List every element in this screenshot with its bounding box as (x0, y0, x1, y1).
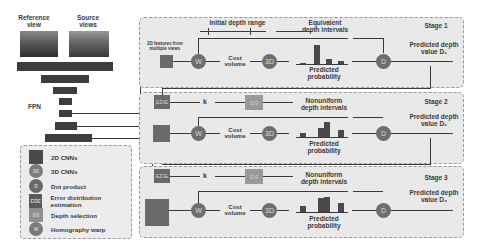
legend-item-error-distribution: EDE Error distribution estimation (29, 194, 131, 208)
warp-node-stage-2: W (191, 126, 206, 141)
legend-item-3d-cnns: 3D 3D CNNs (29, 164, 77, 178)
stage1-to-stage2-connector (162, 88, 163, 95)
pred-axis-1 (391, 61, 453, 62)
arrow (198, 38, 199, 54)
arrow (206, 133, 220, 134)
probability-histogram-3 (300, 197, 346, 213)
arrow (277, 61, 289, 62)
legend-item-dot-product: D Dot product (29, 179, 86, 193)
probability-label-1: Predicted probability (298, 67, 350, 81)
arrow (250, 61, 262, 62)
circle-d-icon: D (29, 179, 43, 193)
probability-label-2: Predicted probability (298, 141, 350, 155)
pred-depth-label-1: Predicted depth value D₁ (408, 42, 460, 56)
circle-w-icon: W (29, 222, 43, 236)
ds-node-stage-3: DS (245, 169, 263, 184)
warp-node-stage-3: W (191, 203, 206, 218)
stage1-to-stage2-connector (430, 66, 431, 88)
reference-view-label: Reference view (14, 15, 54, 29)
pred-axis-2 (391, 133, 453, 134)
initial-range-axis (200, 31, 266, 32)
dot-product-node-2: D (376, 126, 391, 141)
arrow (250, 133, 262, 134)
range-tick (208, 28, 209, 35)
square-ds-icon: DS (29, 208, 43, 222)
cost-volume-label-2: Cost volume (220, 127, 250, 140)
arrow (353, 38, 383, 39)
legend-item-homography-warp: W Homography warp (29, 222, 105, 236)
circle-3d-icon: 3D (29, 164, 43, 178)
fpn-level-3 (53, 87, 77, 94)
warp-node-stage-1: W (191, 54, 206, 69)
fpn-out-3 (45, 134, 92, 142)
arrow (206, 210, 220, 211)
stage-3-title: Stage 3 (416, 175, 456, 182)
arrow (198, 191, 199, 203)
ede-node-stage-3: EDE (154, 169, 170, 183)
fpn-label: FPN (28, 104, 41, 111)
dot-product-node-1: D (376, 54, 391, 69)
ede-node-stage-2: EDE (154, 95, 170, 109)
arrow (206, 61, 220, 62)
stage2-to-stage3-connector (430, 138, 431, 164)
initial-depth-range-label: Initial depth range (200, 20, 275, 27)
fpn-connector-1 (72, 113, 140, 114)
fpn-level-1 (17, 62, 113, 71)
intervals-axis-1 (294, 38, 348, 39)
pred-depth-label-3: Predicted depth value D₃ (408, 190, 460, 204)
cnn3d-node-stage-2: 3D (262, 126, 277, 141)
intervals-axis-3 (294, 191, 348, 192)
fpn-out-1 (59, 110, 72, 117)
arrow (170, 176, 200, 177)
intervals-axis-2 (294, 117, 348, 118)
square-2d-icon (29, 150, 43, 164)
source-views-image (69, 31, 109, 57)
stage2-to-stage3-connector (162, 164, 431, 165)
interval-feedback-line-3 (198, 191, 298, 192)
cnn3d-node-stage-1: 3D (262, 54, 277, 69)
fpn-level-4 (59, 98, 72, 105)
legend-item-2d-cnns: 2D CNNs (29, 150, 77, 164)
arrow (277, 210, 289, 211)
features-2d-node-stage-3 (145, 199, 169, 226)
pred-axis-3 (391, 210, 453, 211)
intervals-label-1: Equivalent depth intervals (300, 20, 350, 34)
arrow (250, 210, 262, 211)
arrow (353, 191, 383, 192)
probability-histogram-2 (300, 122, 346, 138)
arrow (353, 117, 383, 118)
intervals-label-2: Nonuniform depth intervals (298, 98, 350, 112)
arrow (169, 210, 191, 211)
cost-volume-label-1: Cost volume (220, 55, 250, 68)
k-label-3: k (203, 172, 207, 179)
fpn-level-2 (41, 75, 89, 83)
stage-2-title: Stage 2 (416, 99, 456, 106)
arrow (198, 117, 199, 126)
stage-1-title: Stage 1 (416, 23, 456, 30)
ds-node-stage-2: DS (245, 95, 263, 110)
range-tick (250, 28, 251, 35)
cost-volume-label-3: Cost volume (220, 204, 250, 217)
features-2d-node (160, 55, 173, 68)
intervals-label-3: Nonuniform depth intervals (298, 172, 350, 186)
arrow (263, 102, 293, 103)
cnn3d-node-stage-3: 3D (262, 203, 277, 218)
features-label: 2D features from multiple views (145, 42, 185, 51)
probability-histogram-1 (300, 43, 346, 65)
arrow (215, 176, 245, 177)
arrow (173, 61, 191, 62)
source-views-label: Source views (68, 15, 108, 29)
square-ede-icon: EDE (29, 194, 42, 208)
stage1-to-stage2-connector (162, 88, 431, 89)
k-label-2: k (203, 98, 207, 105)
arrow (383, 38, 384, 53)
fpn-out-2 (55, 122, 77, 130)
pred-depth-label-2: Predicted depth value D₂ (408, 114, 460, 128)
arrow (263, 176, 293, 177)
features-2d-node-stage-2 (153, 125, 170, 142)
arrow (170, 133, 191, 134)
arrow (170, 102, 200, 103)
dot-product-node-3: D (376, 203, 391, 218)
probability-label-3: Predicted probability (298, 216, 350, 230)
arrow (277, 133, 289, 134)
